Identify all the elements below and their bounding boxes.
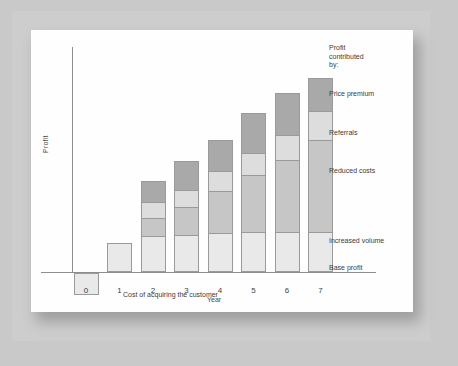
legend-item-referrals: Referrals <box>329 129 357 136</box>
bar-segment-base-profit-year-6 <box>275 232 300 272</box>
bar-segment-base-profit-year-1 <box>107 243 132 272</box>
plot-area: Profit Year 01234567 Cost of acquiring t… <box>31 30 413 312</box>
legend-item-reduced-costs: Reduced costs <box>329 167 375 174</box>
legend-title-line-3: by: <box>329 61 399 70</box>
bar-segment-reduced-costs-year-3 <box>174 190 199 208</box>
bar-segment-increased-volume-year-7 <box>308 140 333 233</box>
bar-year-5 <box>241 113 266 272</box>
figure-container: Profit Year 01234567 Cost of acquiring t… <box>0 0 458 366</box>
bar-segment-base-profit-year-2 <box>141 236 166 272</box>
bar-segment-price-premium-year-2 <box>141 181 166 203</box>
bar-segment-reduced-costs-year-7 <box>308 111 333 141</box>
bar-segment-increased-volume-year-5 <box>241 175 266 233</box>
bar-segment-base-profit-year-5 <box>241 232 266 272</box>
bar-segment-increased-volume-year-2 <box>141 218 166 237</box>
chart-panel: Profit Year 01234567 Cost of acquiring t… <box>31 30 413 312</box>
x-tick-5: 5 <box>242 286 266 295</box>
acquisition-cost-annotation: Cost of acquiring the customer <box>123 291 218 298</box>
bar-segment-price-premium-year-4 <box>208 140 233 172</box>
bar-year-6 <box>275 93 300 272</box>
legend-item-increased-volume: Increased volume <box>329 237 384 244</box>
bar-segment-price-premium-year-6 <box>275 93 300 136</box>
bar-year-3 <box>174 161 199 272</box>
bar-segment-increased-volume-year-6 <box>275 160 300 233</box>
bar-segment-reduced-costs-year-6 <box>275 135 300 161</box>
bar-segment-reduced-costs-year-5 <box>241 153 266 176</box>
x-tick-7: 7 <box>309 286 333 295</box>
x-tick-6: 6 <box>275 286 299 295</box>
legend-item-price-premium: Price premium <box>329 90 374 97</box>
bar-segment-increased-volume-year-4 <box>208 191 233 234</box>
bar-segment-reduced-costs-year-2 <box>141 202 166 219</box>
legend-title: Profit contributed by: <box>329 44 399 70</box>
bar-year-1 <box>107 243 132 272</box>
bar-segment-price-premium-year-5 <box>241 113 266 154</box>
legend-title-line-1: Profit <box>329 44 399 53</box>
bar-segment-increased-volume-year-3 <box>174 207 199 236</box>
legend-title-line-2: contributed <box>329 53 399 62</box>
bar-segment-price-premium-year-3 <box>174 161 199 191</box>
bar-segment-base-profit-year-4 <box>208 233 233 272</box>
legend-item-base-profit: Base profit <box>329 264 362 271</box>
x-tick-0: 0 <box>74 286 98 295</box>
bar-year-4 <box>208 140 233 272</box>
bar-segment-reduced-costs-year-4 <box>208 171 233 192</box>
bar-segment-base-profit-year-3 <box>174 235 199 272</box>
bar-year-2 <box>141 181 166 272</box>
